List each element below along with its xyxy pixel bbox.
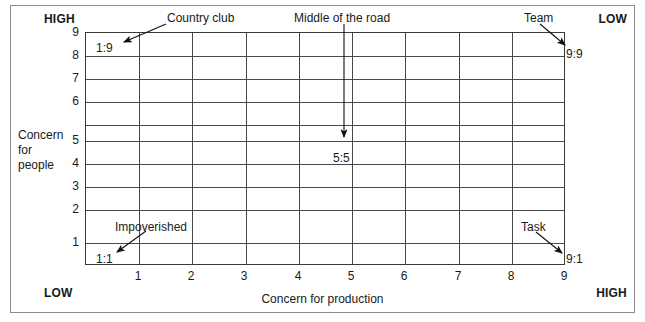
x-tick-7: 7 — [446, 270, 470, 282]
x-tick-4: 4 — [286, 270, 310, 282]
x-tick-9: 9 — [552, 270, 576, 282]
y-tick-3: 3 — [57, 180, 79, 192]
gridline-h-3 — [86, 187, 564, 188]
gridline-v-6 — [405, 33, 406, 264]
x-tick-6: 6 — [392, 270, 416, 282]
y-tick-4: 4 — [57, 157, 79, 169]
y-tick-7: 7 — [57, 72, 79, 84]
gridline-h-5 — [86, 141, 564, 142]
y-tick-9: 9 — [57, 26, 79, 38]
point-value-9-9: 9:9 — [566, 48, 583, 60]
x-tick-1: 1 — [126, 270, 150, 282]
x-axis-low-label-top: LOW — [598, 12, 627, 26]
point-value-5-5: 5:5 — [333, 152, 350, 164]
gridline-h-5b — [86, 125, 564, 126]
x-tick-8: 8 — [499, 270, 523, 282]
point-value-1-9: 1:9 — [96, 42, 113, 54]
gridline-v-7 — [459, 33, 460, 264]
y-axis-high-label: HIGH — [44, 12, 75, 26]
annotation-team-label: Team — [524, 12, 553, 24]
y-tick-2: 2 — [57, 203, 79, 215]
point-value-1-1: 1:1 — [96, 253, 113, 265]
x-tick-2: 2 — [179, 270, 203, 282]
annotation-impoverished-label: Impoverished — [115, 221, 187, 233]
gridline-h-1 — [86, 243, 564, 244]
gridline-h-6 — [86, 102, 564, 103]
y-tick-1: 1 — [57, 236, 79, 248]
annotation-task-label: Task — [521, 221, 546, 233]
annotation-middle-of-the-road-label: Middle of the road — [294, 12, 390, 24]
gridline-v-5 — [352, 33, 353, 264]
gridline-v-2 — [192, 33, 193, 264]
y-tick-5: 5 — [57, 134, 79, 146]
x-axis-title: Concern for production — [0, 292, 645, 306]
annotation-country-club-label: Country club — [167, 12, 234, 24]
gridline-h-8 — [86, 56, 564, 57]
x-tick-5: 5 — [339, 270, 363, 282]
point-value-9-1: 9:1 — [566, 253, 583, 265]
gridline-v-8 — [512, 33, 513, 264]
gridline-h-7 — [86, 79, 564, 80]
x-tick-3: 3 — [232, 270, 256, 282]
managerial-grid-diagram: HIGH LOW LOW HIGH Concern for people Con… — [0, 0, 645, 322]
gridline-v-4 — [299, 33, 300, 264]
gridline-v-3 — [246, 33, 247, 264]
y-tick-6: 6 — [57, 95, 79, 107]
y-tick-8: 8 — [57, 49, 79, 61]
gridline-h-4 — [86, 164, 564, 165]
gridline-h-2 — [86, 210, 564, 211]
